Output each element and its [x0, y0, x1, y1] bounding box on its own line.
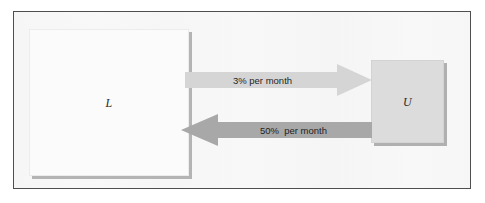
arrow-left-icon — [181, 114, 372, 146]
node-label-l: L — [30, 95, 188, 110]
arrow-right-icon — [185, 64, 372, 96]
node-box-u[interactable]: U — [371, 60, 444, 143]
diagram-page: L U 3% per month 50% per month — [0, 0, 485, 203]
flow-arrow-u-to-l[interactable]: 50% per month — [181, 114, 372, 146]
flow-arrow-l-to-u[interactable]: 3% per month — [185, 64, 372, 96]
node-box-l[interactable]: L — [29, 29, 189, 176]
diagram-frame: L U 3% per month 50% per month — [13, 11, 471, 189]
node-label-u: U — [372, 94, 443, 109]
